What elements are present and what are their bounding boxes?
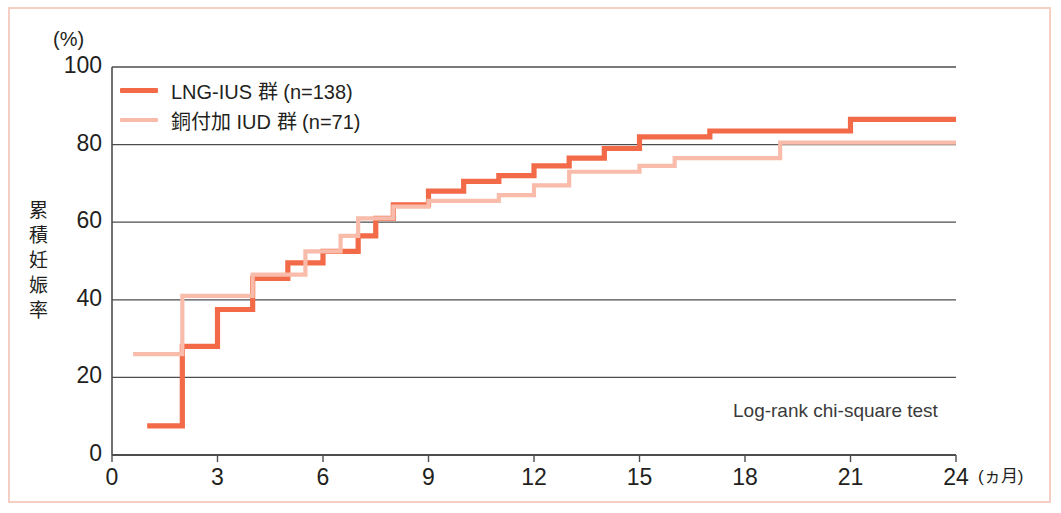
data-series	[133, 119, 956, 426]
legend-item: LNG-IUS 群 (n=138)	[120, 75, 360, 105]
series-step-line-1	[133, 143, 956, 354]
axis-ticks	[112, 455, 956, 462]
legend-item: 銅付加 IUD 群 (n=71)	[120, 105, 360, 135]
x-tick-label: 0	[82, 464, 142, 491]
legend-item-label: LNG-IUS 群 (n=138)	[171, 76, 353, 105]
legend-color-swatch	[120, 88, 158, 93]
x-tick-label: 15	[610, 464, 670, 491]
y-tick-label: 0	[38, 440, 102, 467]
y-tick-label: 60	[38, 207, 102, 234]
legend-item-label: 銅付加 IUD 群 (n=71)	[171, 106, 360, 135]
x-tick-label: 18	[715, 464, 775, 491]
x-axis-unit-label: (ヵ月)	[978, 462, 1023, 487]
y-tick-label: 80	[38, 130, 102, 157]
x-tick-label: 6	[293, 464, 353, 491]
y-tick-label: 20	[38, 362, 102, 389]
chart-legend: LNG-IUS 群 (n=138)銅付加 IUD 群 (n=71)	[120, 75, 360, 135]
x-tick-label: 24	[926, 464, 986, 491]
y-tick-label: 100	[38, 52, 102, 79]
legend-color-swatch	[120, 118, 158, 122]
x-tick-label: 3	[188, 464, 248, 491]
statistical-test-annotation: Log-rank chi-square test	[733, 400, 938, 422]
y-axis-unit-label: (%)	[53, 28, 84, 51]
x-tick-label: 21	[821, 464, 881, 491]
y-tick-label: 40	[38, 285, 102, 312]
x-tick-label: 12	[504, 464, 564, 491]
x-tick-label: 9	[399, 464, 459, 491]
